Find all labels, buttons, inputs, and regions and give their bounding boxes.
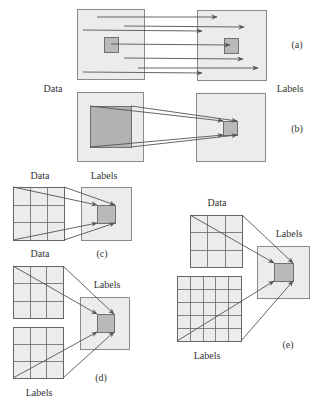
label-e-labels-bottom: Labels	[194, 351, 221, 361]
label-d-data: Data	[31, 249, 50, 259]
target-region	[105, 38, 119, 53]
label-c-labels: Labels	[91, 171, 118, 181]
target-region	[91, 107, 132, 148]
label-e-labels-right: Labels	[276, 229, 303, 239]
target-region	[224, 122, 238, 136]
label-e-caption: (e)	[282, 340, 293, 350]
label-b-caption: (b)	[291, 124, 303, 134]
grid-box	[14, 188, 65, 241]
target-region	[225, 39, 239, 54]
label-ab-labels: Labels	[277, 84, 304, 94]
panel-c	[13, 187, 132, 241]
label-c-caption: (c)	[96, 249, 107, 259]
label-a-caption: (a)	[291, 40, 302, 50]
label-d-labels-right: Labels	[94, 280, 121, 290]
label-d-caption: (d)	[95, 373, 107, 383]
target-region	[98, 206, 116, 224]
label-d-labels-bottom: Labels	[26, 388, 53, 398]
label-ab-data: Data	[44, 84, 63, 94]
grid-box	[14, 267, 64, 319]
panel-b	[78, 93, 266, 162]
grid-box	[178, 277, 242, 342]
target-region	[98, 315, 115, 333]
grid-box	[191, 216, 243, 268]
target-region	[275, 264, 294, 282]
panel-a	[78, 10, 267, 81]
mapping-diagram	[0, 0, 320, 404]
label-e-data: Data	[208, 198, 227, 208]
grid-box	[14, 328, 64, 379]
label-c-data: Data	[31, 171, 50, 181]
